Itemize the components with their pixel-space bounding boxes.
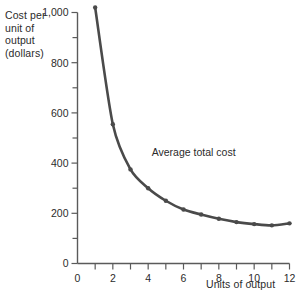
y-tick-label: 200 <box>51 207 69 219</box>
y-tick-label: 400 <box>51 157 69 169</box>
x-axis-title: Units of output <box>206 278 275 290</box>
y-tick-label: 1,000 <box>42 6 68 18</box>
y-tick-label: 600 <box>51 107 69 119</box>
x-tick-label: 12 <box>284 272 296 284</box>
y-tick-label: 800 <box>51 57 69 69</box>
plot-area: 02004006008001,000024681012Average total… <box>0 0 306 297</box>
data-point-marker <box>164 199 168 203</box>
x-tick-label: 0 <box>75 272 81 284</box>
data-point-marker <box>199 212 203 216</box>
data-point-marker <box>217 217 221 221</box>
data-point-marker <box>234 220 238 224</box>
x-tick-label: 2 <box>110 272 116 284</box>
y-tick-label: 0 <box>63 257 69 269</box>
data-point-marker <box>146 186 150 190</box>
data-point-marker <box>111 122 115 126</box>
data-point-marker <box>93 5 97 9</box>
series-line-average-total-cost <box>95 7 289 225</box>
chart-figure: Cost per unit of output (dollars) 020040… <box>0 0 306 297</box>
data-point-marker <box>128 167 132 171</box>
x-tick-label: 4 <box>145 272 151 284</box>
data-point-marker <box>270 223 274 227</box>
data-point-marker <box>252 222 256 226</box>
data-point-marker <box>181 207 185 211</box>
x-tick-label: 6 <box>181 272 187 284</box>
series-annotation: Average total cost <box>152 146 236 158</box>
data-point-marker <box>287 221 291 225</box>
